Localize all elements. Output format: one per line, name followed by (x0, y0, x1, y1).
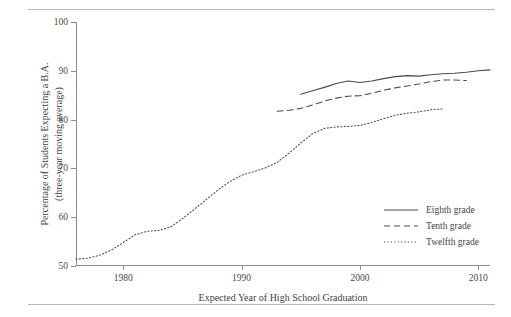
y-tick-label: 100 (54, 17, 68, 27)
x-tick-label: 2010 (469, 273, 488, 283)
y-axis-title: Percentage of Students Expecting a B.A. … (22, 22, 56, 266)
legend-entry-eighth-grade: Eighth grade (384, 202, 479, 218)
x-axis-title: Expected Year of High School Graduation (76, 292, 490, 303)
x-tick-mark (360, 266, 361, 270)
legend-entry-twelfth-grade: Twelfth grade (384, 234, 479, 250)
legend: Eighth grade Tenth grade Twelfth grade (384, 202, 479, 250)
y-tick-label: 80 (59, 115, 69, 125)
legend-label-eighth-grade: Eighth grade (426, 205, 475, 215)
plot-area: 5060708090100 1980199020002010 Eighth gr… (76, 22, 490, 266)
legend-swatch-dotted (384, 237, 418, 247)
y-tick-label: 60 (59, 212, 69, 222)
y-axis-title-line1: Percentage of Students Expecting a B.A. (38, 29, 52, 259)
y-tick-label: 90 (59, 66, 69, 76)
figure-container: Percentage of Students Expecting a B.A. … (0, 0, 511, 317)
legend-swatch-dashed (384, 221, 418, 231)
legend-label-tenth-grade: Tenth grade (426, 221, 471, 231)
x-tick-label: 1990 (232, 273, 251, 283)
y-tick-label: 50 (59, 261, 69, 271)
y-axis-title-line2: (three-year moving average) (51, 29, 65, 259)
y-tick-label: 70 (59, 163, 69, 173)
x-tick-label: 2000 (350, 273, 369, 283)
legend-swatch-solid (384, 205, 418, 215)
x-tick-mark (123, 266, 124, 270)
x-tick-mark (478, 266, 479, 270)
cropped-title-fragment (0, 0, 511, 3)
series-line-eighth-grade (301, 70, 490, 94)
x-tick-mark (242, 266, 243, 270)
legend-label-twelfth-grade: Twelfth grade (426, 237, 479, 247)
top-horizontal-rule (28, 9, 495, 10)
x-tick-label: 1980 (114, 273, 133, 283)
legend-entry-tenth-grade: Tenth grade (384, 218, 479, 234)
series-line-tenth-grade (277, 80, 466, 111)
y-tick-mark (71, 266, 76, 267)
bottom-horizontal-rule (28, 304, 495, 305)
